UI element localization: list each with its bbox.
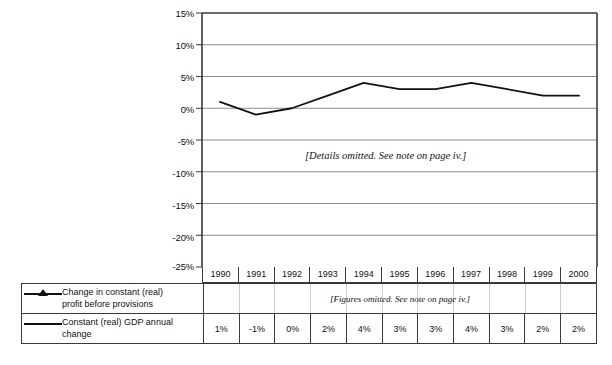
- gdp-value-cell: 3%: [489, 314, 525, 344]
- year-cell: 1991: [239, 267, 275, 282]
- gdp-value-cell: 3%: [382, 314, 418, 344]
- gdp-value-cell: 4%: [346, 314, 382, 344]
- year-cell: 1996: [418, 267, 454, 282]
- year-header-row: 1990 1991 1992 1993 1994 1995 1996 1997 …: [202, 267, 597, 283]
- gdp-value-cell: -1%: [239, 314, 275, 344]
- legend-label-gdp-line1: Constant (real) GDP annual: [62, 317, 173, 327]
- year-cell: 1999: [525, 267, 561, 282]
- gdp-value-cell: 1%: [204, 314, 240, 344]
- legend-cell-gdp: Constant (real) GDP annual change: [22, 314, 204, 344]
- legend-label-gdp: Constant (real) GDP annual change: [62, 317, 173, 340]
- gdp-value-cell: 3%: [418, 314, 454, 344]
- triangle-marker-icon: [22, 288, 62, 299]
- year-cell: 2000: [561, 267, 596, 282]
- year-cell: 1995: [382, 267, 418, 282]
- axis-ticks: [196, 13, 202, 267]
- plot-area: [0, 0, 612, 272]
- chart-region: 15% 10% 5% 0% -5% -10% -15% -20% -25%: [0, 0, 612, 272]
- legend-data-table: Change in constant (real) profit before …: [21, 283, 597, 344]
- year-cell: 1990: [203, 267, 239, 282]
- gdp-value-cell: 2%: [561, 314, 597, 344]
- figures-omitted-cell: [Figures omitted. See note on page iv.]: [204, 284, 597, 314]
- year-cell: 1994: [346, 267, 382, 282]
- chart-omitted-note: [Details omitted. See note on page iv.]: [305, 150, 466, 161]
- year-cell: 1993: [310, 267, 346, 282]
- gdp-value-cell: 2%: [525, 314, 561, 344]
- table-row-gdp: Constant (real) GDP annual change 1% -1%…: [22, 314, 597, 344]
- legend-label-profit: Change in constant (real) profit before …: [62, 287, 163, 310]
- gridlines: [202, 13, 597, 235]
- legend-label-profit-line1: Change in constant (real): [62, 287, 163, 297]
- line-marker-icon: [22, 318, 62, 329]
- year-cell: 1997: [454, 267, 490, 282]
- gdp-value-cell: 2%: [311, 314, 347, 344]
- legend-cell-profit: Change in constant (real) profit before …: [22, 284, 204, 314]
- gdp-value-cell: 4%: [454, 314, 490, 344]
- figures-omitted-note: [Figures omitted. See note on page iv.]: [330, 294, 470, 304]
- series-line-gdp: [220, 83, 579, 115]
- legend-label-gdp-line2: change: [62, 329, 92, 339]
- gdp-value-cell: 0%: [275, 314, 311, 344]
- legend-label-profit-line2: profit before provisions: [62, 299, 153, 309]
- year-cell: 1998: [490, 267, 526, 282]
- table-row-profit: Change in constant (real) profit before …: [22, 284, 597, 314]
- year-cell: 1992: [275, 267, 311, 282]
